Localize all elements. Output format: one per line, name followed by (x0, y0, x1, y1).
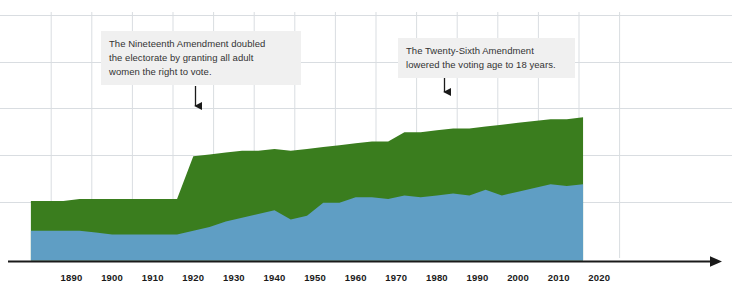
x-axis-tick-label: 1940 (264, 272, 286, 283)
x-axis-tick-label: 2010 (548, 272, 570, 283)
x-axis-tick-label: 1950 (304, 272, 326, 283)
x-axis-tick-label: 1920 (182, 272, 204, 283)
annotation-nineteenth-amendment: The Nineteenth Amendment doubled the ele… (101, 31, 301, 85)
annotation-twentysixth-amendment: The Twenty-Sixth Amendment lowered the v… (398, 38, 575, 78)
x-axis-tick-label: 1970 (385, 272, 407, 283)
x-axis-tick-label: 1900 (101, 272, 123, 283)
x-axis-tick-label: 1890 (61, 272, 83, 283)
x-axis-tick-label: 2020 (588, 272, 610, 283)
voter-turnout-area-chart: The Nineteenth Amendment doubled the ele… (0, 0, 732, 294)
x-axis-tick-label: 1910 (142, 272, 164, 283)
x-axis-tick-label: 1990 (467, 272, 489, 283)
x-axis-tick-label: 2000 (507, 272, 529, 283)
x-axis-tick-label: 1930 (223, 272, 245, 283)
x-axis-tick-label: 1980 (426, 272, 448, 283)
x-axis-tick-label: 1960 (345, 272, 367, 283)
